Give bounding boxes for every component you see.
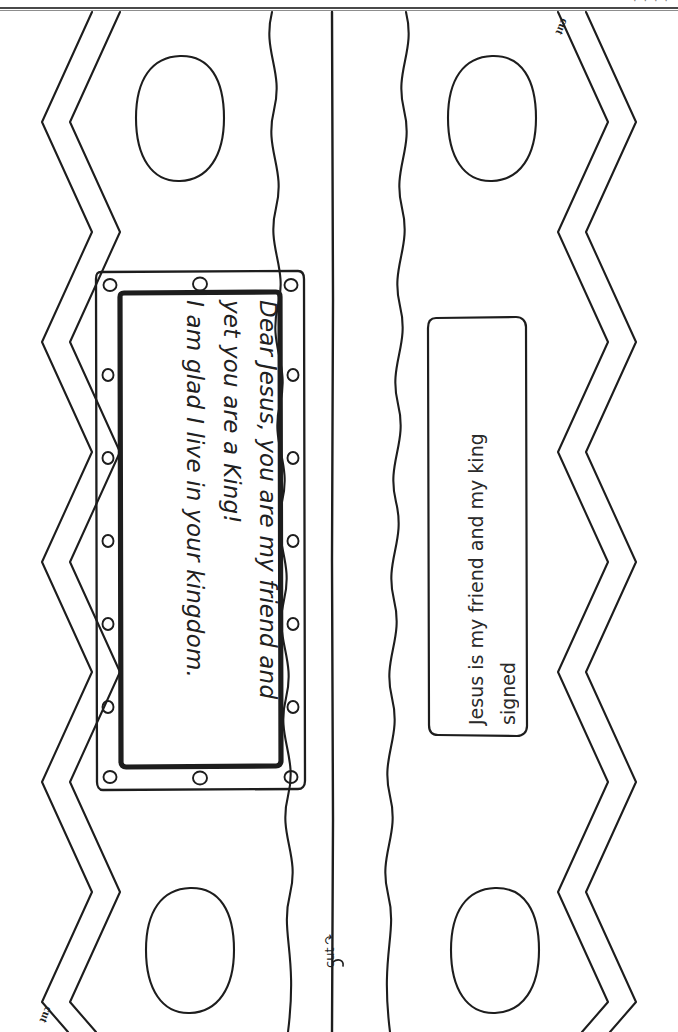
printable-page: · · · · [0, 0, 678, 1032]
jewel-circle-top-right [448, 56, 536, 181]
zigzag-edge-right-outer [586, 12, 636, 1032]
prayer-card-inner-frame [120, 292, 281, 767]
zigzag-edge-right-inner [558, 12, 608, 1032]
zigzag-edge-left-inner [70, 12, 120, 1032]
center-fold-line [332, 12, 333, 1032]
cut-arrow-center [333, 960, 343, 966]
wavy-band-right [385, 12, 408, 1032]
jewel-circle-bottom-right [451, 888, 539, 1013]
jewel-circle-top-left [136, 56, 224, 181]
signature-card-frame [428, 317, 527, 736]
jewel-circle-bottom-left [146, 888, 234, 1013]
prayer-card-rivets [103, 278, 299, 785]
crown-template-artwork [0, 0, 678, 1032]
prayer-card-outer-frame [96, 271, 305, 790]
zigzag-edge-left-outer [42, 12, 92, 1032]
